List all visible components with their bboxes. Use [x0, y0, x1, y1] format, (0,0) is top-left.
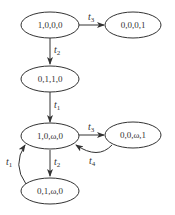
svg-text:1,0,ω,0: 1,0,ω,0 — [37, 131, 64, 141]
svg-text:t3: t3 — [88, 121, 95, 134]
svg-text:t2: t2 — [54, 44, 61, 57]
edge-C-D: t1 — [50, 92, 61, 122]
node-B: 0,0,0,1 — [105, 12, 161, 38]
node-F: 0,1,ω,0 — [21, 178, 79, 204]
svg-text:t3: t3 — [88, 11, 95, 24]
node-D: 1,0,ω,0 — [21, 123, 79, 149]
edge-A-B: t3 — [79, 11, 104, 25]
svg-text:0,1,ω,0: 0,1,ω,0 — [37, 186, 64, 196]
svg-text:t2: t2 — [54, 156, 61, 169]
edge-F-D: t1 — [6, 145, 26, 184]
node-C: 0,1,1,0 — [21, 66, 79, 92]
reachability-graph: t3 t2 t1 t3 t4 t2 t1 1,0,0,0 0,0,0,1 0,1… — [0, 0, 175, 215]
svg-text:0,0,0,1: 0,0,0,1 — [121, 20, 146, 30]
node-E: 0,0,ω,1 — [105, 122, 161, 148]
node-A: 1,0,0,0 — [21, 12, 79, 38]
svg-text:0,1,1,0: 0,1,1,0 — [38, 74, 63, 84]
edge-E-D: t4 — [76, 145, 112, 168]
edge-A-C: t2 — [50, 38, 61, 64]
edge-D-F: t2 — [50, 150, 61, 176]
svg-text:t1: t1 — [6, 156, 13, 169]
svg-text:t1: t1 — [54, 99, 61, 112]
svg-text:1,0,0,0: 1,0,0,0 — [38, 20, 63, 30]
edge-D-E: t3 — [79, 121, 104, 135]
svg-text:t4: t4 — [89, 155, 96, 168]
svg-text:0,0,ω,1: 0,0,ω,1 — [120, 130, 146, 140]
